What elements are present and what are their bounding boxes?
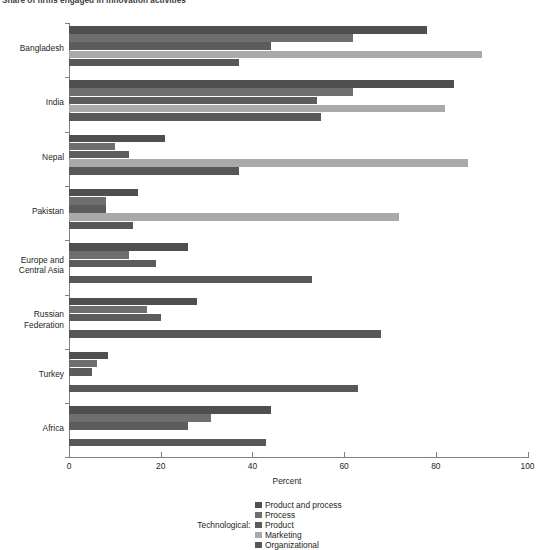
bar-row[interactable] — [69, 422, 188, 430]
bar-row[interactable] — [69, 159, 468, 167]
bar[interactable] — [69, 330, 381, 338]
bar-row[interactable] — [69, 197, 106, 205]
bar-row[interactable] — [69, 34, 353, 42]
bar[interactable] — [69, 26, 427, 34]
bar-row[interactable] — [69, 298, 197, 306]
x-axis-tick-label: 40 — [248, 461, 257, 471]
bar[interactable] — [69, 105, 445, 113]
x-axis-tick-label: 20 — [156, 461, 165, 471]
bar-row[interactable] — [69, 51, 482, 59]
x-axis-tick — [436, 452, 437, 458]
bar[interactable] — [69, 276, 312, 284]
bar[interactable] — [69, 352, 108, 360]
bar-row[interactable] — [69, 135, 165, 143]
bar[interactable] — [69, 243, 188, 251]
bar-row[interactable] — [69, 368, 92, 376]
y-axis-label-line: Bangladesh — [0, 43, 64, 54]
bar[interactable] — [69, 298, 197, 306]
y-axis-label-line: Central Asia — [0, 265, 64, 276]
bar-row[interactable] — [69, 59, 239, 67]
bar[interactable] — [69, 113, 321, 121]
bar[interactable] — [69, 143, 115, 151]
bar[interactable] — [69, 251, 129, 259]
bar[interactable] — [69, 385, 358, 393]
bar[interactable] — [69, 159, 468, 167]
bar[interactable] — [69, 42, 271, 50]
bar[interactable] — [69, 59, 239, 67]
y-axis-label-turkey: Turkey — [0, 369, 64, 380]
bar[interactable] — [69, 151, 129, 159]
x-axis-tick-label: 60 — [339, 461, 348, 471]
y-axis-label-line: Africa — [0, 423, 64, 434]
bar-row[interactable] — [69, 260, 156, 268]
bar-row[interactable] — [69, 26, 427, 34]
bar-row[interactable] — [69, 439, 266, 447]
legend-swatch-icon — [255, 522, 262, 529]
y-axis-label-line: Turkey — [0, 369, 64, 380]
bar[interactable] — [69, 422, 188, 430]
bar-row[interactable] — [69, 222, 133, 230]
bar[interactable] — [69, 368, 92, 376]
bar[interactable] — [69, 213, 399, 221]
bar-row[interactable] — [69, 151, 129, 159]
bar[interactable] — [69, 97, 317, 105]
legend-item-label: Marketing — [265, 530, 302, 540]
bar-row[interactable] — [69, 314, 161, 322]
legend-swatch-icon — [255, 542, 262, 549]
bar-row[interactable] — [69, 352, 108, 360]
legend-item[interactable]: Product — [255, 520, 341, 530]
bar[interactable] — [69, 260, 156, 268]
x-axis-tick-label: 100 — [521, 461, 535, 471]
bar-row[interactable] — [69, 105, 445, 113]
bar-row[interactable] — [69, 213, 399, 221]
bar-row[interactable] — [69, 80, 454, 88]
bar-row[interactable] — [69, 360, 97, 368]
bar[interactable] — [69, 197, 106, 205]
y-axis-label-line: Europe and — [0, 255, 64, 266]
bar-row[interactable] — [69, 243, 188, 251]
bar-row[interactable] — [69, 189, 138, 197]
bar-row[interactable] — [69, 414, 211, 422]
bar-row[interactable] — [69, 330, 381, 338]
bar-row[interactable] — [69, 251, 129, 259]
bar-row[interactable] — [69, 385, 358, 393]
bar[interactable] — [69, 189, 138, 197]
bar[interactable] — [69, 406, 271, 414]
bar[interactable] — [69, 88, 353, 96]
bar-row[interactable] — [69, 97, 317, 105]
bar[interactable] — [69, 222, 133, 230]
bar[interactable] — [69, 360, 97, 368]
bar[interactable] — [69, 306, 147, 314]
x-axis-tick — [528, 452, 529, 458]
legend-item[interactable]: Process — [255, 510, 341, 520]
legend-prefix-label: Technological: — [197, 520, 250, 530]
bar[interactable] — [69, 135, 165, 143]
plot-area — [69, 23, 527, 457]
bar-row[interactable] — [69, 205, 106, 213]
bar[interactable] — [69, 167, 239, 175]
y-axis-label-india: India — [0, 97, 64, 108]
bar[interactable] — [69, 205, 106, 213]
bar[interactable] — [69, 34, 353, 42]
bar-row[interactable] — [69, 167, 239, 175]
y-axis-label-africa: Africa — [0, 423, 64, 434]
y-axis-labels: BangladeshIndiaNepalPakistanEurope andCe… — [0, 0, 64, 521]
bar[interactable] — [69, 51, 482, 59]
x-axis-tick-label: 0 — [67, 461, 72, 471]
bar-row[interactable] — [69, 276, 312, 284]
bar[interactable] — [69, 314, 161, 322]
legend-item[interactable]: Product and process — [255, 500, 341, 510]
bar[interactable] — [69, 80, 454, 88]
bar-row[interactable] — [69, 88, 353, 96]
legend-item[interactable]: Organizational — [255, 540, 341, 550]
bar-row[interactable] — [69, 306, 147, 314]
bar-row[interactable] — [69, 113, 321, 121]
bar[interactable] — [69, 414, 211, 422]
legend-item[interactable]: Marketing — [255, 530, 341, 540]
bar[interactable] — [69, 439, 266, 447]
bar-row[interactable] — [69, 42, 271, 50]
bar-row[interactable] — [69, 143, 115, 151]
bar-row[interactable] — [69, 406, 271, 414]
legend-swatch-icon — [255, 512, 262, 519]
legend-item-label: Organizational — [265, 540, 319, 550]
